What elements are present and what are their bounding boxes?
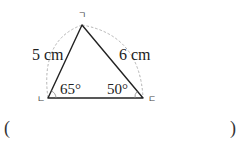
side-label-right: 6 cm	[119, 47, 151, 63]
answer-open-paren: (	[4, 119, 10, 137]
angle-arc-bottom-left	[52, 91, 57, 98]
angle-label-bottom-left: 65°	[60, 82, 81, 97]
vertex-label-top: ㄱ	[78, 11, 86, 20]
angle-label-bottom-right: 50°	[107, 82, 128, 97]
answer-blank[interactable]	[14, 119, 228, 139]
vertex-label-bottom-right: ㄷ	[148, 95, 156, 104]
answer-close-paren: )	[230, 119, 236, 137]
vertex-label-bottom-left: ㄴ	[37, 95, 45, 104]
angle-arc-bottom-right	[135, 92, 137, 99]
side-label-left: 5 cm	[32, 47, 64, 63]
